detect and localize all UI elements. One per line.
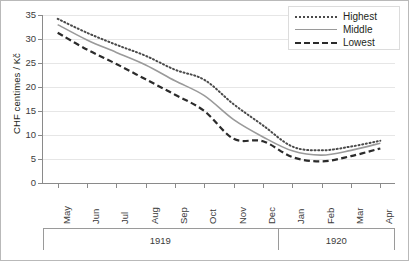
- x-tick-mark-nov: [234, 183, 235, 188]
- legend-item-middle[interactable]: Middle: [293, 23, 397, 36]
- x-axis-label-apr: Apr: [384, 209, 394, 224]
- x-tick-mark-feb: [322, 183, 323, 188]
- y-tick-mark-35: [38, 15, 43, 16]
- y-tick-label-30: 30: [14, 34, 36, 44]
- x-tick-mark-oct: [204, 183, 205, 188]
- y-tick-mark-10: [38, 135, 43, 136]
- x-axis-label-feb: Feb: [326, 208, 336, 224]
- x-axis-label-aug: Aug: [150, 207, 160, 224]
- y-tick-mark-5: [38, 159, 43, 160]
- x-tick-mark-sep: [175, 183, 176, 188]
- x-tick-mark-jun: [87, 183, 88, 188]
- legend-label-lowest: Lowest: [343, 37, 375, 48]
- series-line-lowest: [58, 33, 381, 162]
- x-axis-label-jun: Jun: [91, 209, 101, 224]
- chart-legend: HighestMiddleLowest: [288, 6, 400, 50]
- y-axis-tick-labels: 35302520151050: [10, 0, 36, 200]
- chart-figure: CHF centimes / Kč 35302520151050 MayJunJ…: [0, 0, 410, 262]
- dotted-line-swatch: [295, 16, 337, 18]
- x-axis-year-band: 19191920: [43, 228, 395, 250]
- y-tick-label-10: 10: [14, 130, 36, 140]
- y-tick-mark-25: [38, 63, 43, 64]
- y-tick-label-5: 5: [14, 154, 36, 164]
- y-tick-label-35: 35: [14, 10, 36, 20]
- x-axis-label-nov: Nov: [238, 207, 248, 224]
- x-axis-label-jul: Jul: [120, 212, 130, 224]
- x-axis-line: [42, 183, 395, 184]
- y-tick-mark-20: [38, 87, 43, 88]
- legend-swatch-highest: [293, 10, 339, 23]
- legend-label-highest: Highest: [343, 11, 377, 22]
- x-axis-label-oct: Oct: [208, 209, 218, 224]
- year-label-1919: 1919: [43, 236, 278, 246]
- x-tick-mark-may: [58, 183, 59, 188]
- y-tick-mark-30: [38, 39, 43, 40]
- y-tick-label-0: 0: [14, 178, 36, 188]
- x-tick-mark-dec: [263, 183, 264, 188]
- x-axis-label-jan: Jan: [296, 209, 306, 224]
- solid-line-swatch: [295, 29, 337, 30]
- x-tick-mark-jul: [116, 183, 117, 188]
- legend-swatch-middle: [293, 23, 339, 36]
- year-band-top-rule: [43, 228, 395, 229]
- x-axis-label-dec: Dec: [267, 207, 277, 224]
- x-tick-mark-apr: [380, 183, 381, 188]
- x-tick-mark-aug: [146, 183, 147, 188]
- x-tick-mark-jan: [292, 183, 293, 188]
- legend-item-highest[interactable]: Highest: [293, 10, 397, 23]
- y-tick-mark-15: [38, 111, 43, 112]
- year-label-1920: 1920: [278, 236, 395, 246]
- y-tick-label-25: 25: [14, 58, 36, 68]
- dashed-line-swatch: [295, 42, 337, 44]
- y-tick-label-20: 20: [14, 82, 36, 92]
- y-tick-mark-0: [38, 183, 43, 184]
- x-axis-label-sep: Sep: [179, 207, 189, 224]
- legend-label-middle: Middle: [343, 24, 372, 35]
- legend-item-lowest[interactable]: Lowest: [293, 36, 397, 49]
- x-tick-mark-mar: [351, 183, 352, 188]
- x-axis-month-labels: MayJunJulAugSepOctNovDecJanFebMarApr: [0, 188, 410, 228]
- legend-swatch-lowest: [293, 36, 339, 49]
- x-axis-label-mar: Mar: [355, 208, 365, 224]
- x-axis-label-may: May: [62, 206, 72, 224]
- y-tick-label-15: 15: [14, 106, 36, 116]
